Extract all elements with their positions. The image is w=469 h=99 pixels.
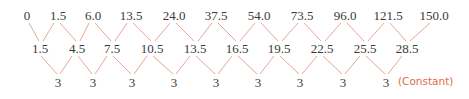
value-cell: 54.0 [248, 9, 271, 22]
connector-line [260, 56, 274, 74]
first-difference-cell: 16.5 [226, 42, 249, 55]
connector-line [95, 23, 111, 41]
value-cell: 1.5 [50, 9, 66, 22]
connector-line [345, 56, 360, 74]
second-difference-cell: 3 [171, 76, 178, 89]
connector-line [95, 56, 107, 74]
connector-line [261, 23, 278, 41]
second-difference-cell: 3 [255, 76, 262, 89]
second-difference-cell: 3 [297, 76, 304, 89]
connector-line [176, 56, 190, 74]
second-difference-cell: 3 [129, 76, 136, 89]
connector-line [134, 56, 147, 74]
connector-line [176, 23, 194, 41]
second-difference-cell: 3 [213, 76, 220, 89]
second-difference-cell: 3 [90, 76, 97, 89]
connector-line [347, 23, 364, 41]
finite-differences-diagram: 01.56.013.524.037.554.073.596.0121.5150.… [0, 0, 469, 99]
connector-line [198, 23, 212, 41]
first-difference-cell: 7.5 [104, 42, 120, 55]
value-cell: 150.0 [419, 9, 448, 22]
connector-line [238, 56, 257, 74]
connector-line [153, 56, 173, 74]
second-difference-cell: 3 [383, 76, 390, 89]
value-cell: 73.5 [291, 9, 314, 22]
value-cell: 0 [24, 9, 31, 22]
value-cell: 24.0 [163, 9, 186, 22]
connector-line [366, 56, 385, 74]
connector-line [390, 23, 406, 41]
connector-line [113, 56, 131, 74]
connector-line [368, 23, 384, 41]
first-difference-cell: 1.5 [32, 42, 48, 55]
connector-line [304, 23, 321, 41]
connector-line [196, 56, 215, 74]
connector-line [78, 56, 92, 74]
connector-line [60, 23, 76, 41]
connector-line [155, 23, 170, 41]
connector-line [80, 23, 89, 41]
connector-line [29, 23, 39, 41]
connector-line [388, 56, 402, 74]
value-cell: 6.0 [85, 9, 101, 22]
first-difference-cell: 19.5 [268, 42, 291, 55]
connector-line [41, 56, 57, 74]
connector-line [323, 56, 342, 74]
first-difference-cell: 22.5 [311, 42, 334, 55]
connector-line [240, 23, 255, 41]
connector-line [43, 23, 54, 41]
value-cell: 37.5 [205, 9, 228, 22]
first-difference-cell: 25.5 [354, 42, 377, 55]
connector-line [282, 23, 298, 41]
connector-line [218, 23, 236, 41]
first-difference-cell: 4.5 [69, 42, 85, 55]
connector-line [302, 56, 317, 74]
second-difference-cell: 3 [55, 76, 62, 89]
first-difference-cell: 28.5 [396, 42, 419, 55]
connector-line [115, 23, 127, 41]
connector-line [133, 23, 151, 41]
first-difference-cell: 13.5 [184, 42, 207, 55]
value-cell: 13.5 [120, 9, 143, 22]
constant-note: (Constant) [398, 76, 453, 87]
second-difference-cell: 3 [340, 76, 347, 89]
connector-line [60, 56, 72, 74]
value-cell: 96.0 [334, 9, 357, 22]
first-difference-cell: 10.5 [141, 42, 164, 55]
connector-line [410, 23, 430, 41]
connector-line [280, 56, 299, 74]
value-cell: 121.5 [373, 9, 402, 22]
connector-line [218, 56, 232, 74]
connector-line [325, 23, 341, 41]
